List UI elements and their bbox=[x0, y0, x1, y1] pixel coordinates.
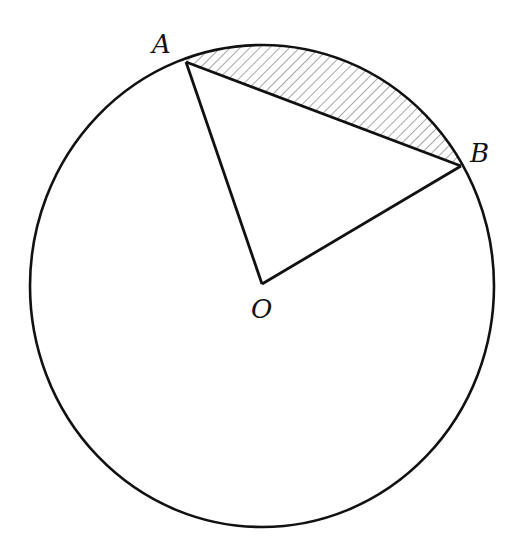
radius-OB bbox=[262, 166, 461, 284]
shaded-segment bbox=[150, 0, 520, 166]
label-O: O bbox=[251, 294, 272, 324]
geometry-figure: A B O bbox=[0, 0, 520, 547]
diagram: A B O bbox=[0, 0, 520, 547]
label-B: B bbox=[469, 138, 489, 168]
radius-OA bbox=[186, 62, 262, 284]
label-A: A bbox=[150, 29, 171, 59]
